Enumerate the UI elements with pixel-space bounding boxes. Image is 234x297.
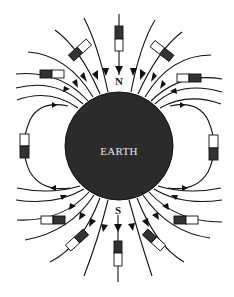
compass-needle-bottom-center: [114, 241, 122, 266]
north-pole-label: N: [115, 75, 123, 87]
compass-needle-right: [209, 135, 218, 160]
compass-needle-bottom-left: [65, 229, 88, 251]
compass-needle-top-right: [150, 40, 174, 61]
south-pole-label: S: [115, 204, 121, 216]
compass-needle-upper-right: [177, 74, 201, 82]
compass-needle-lower-right: [174, 216, 198, 224]
compass-needle-left: [20, 134, 29, 158]
earth-magnetic-field-diagram: EARTH N S: [0, 0, 234, 297]
earth-label: EARTH: [100, 145, 138, 157]
earth: EARTH: [65, 92, 173, 200]
compass-needle-top-center: [115, 26, 123, 51]
compass-needle-upper-left: [40, 70, 64, 78]
compass-needle-lower-left: [41, 216, 65, 224]
